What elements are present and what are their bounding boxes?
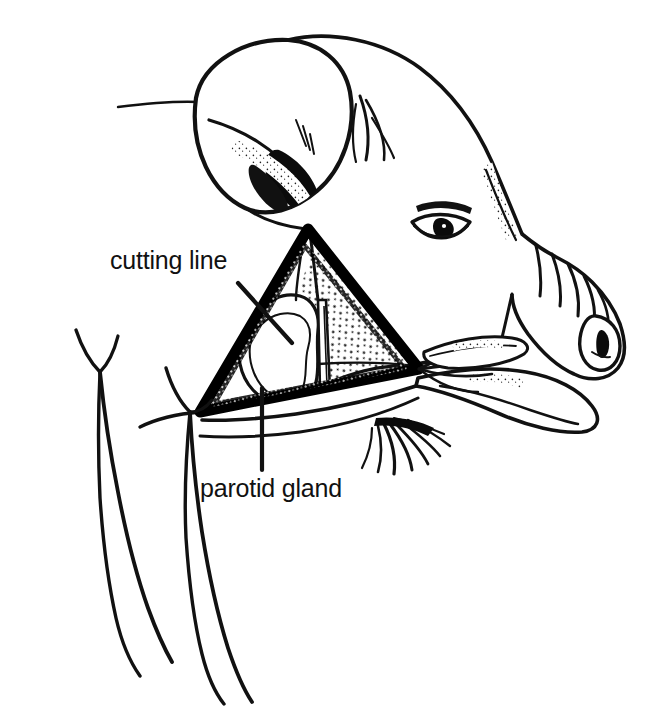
label-cutting-line: cutting line (110, 248, 227, 273)
anatomy-figure: cutting line parotid gland (0, 0, 672, 708)
label-parotid-gland: parotid gland (200, 476, 342, 501)
eye-highlight (442, 224, 446, 228)
pig-head-line-drawing (0, 0, 672, 708)
